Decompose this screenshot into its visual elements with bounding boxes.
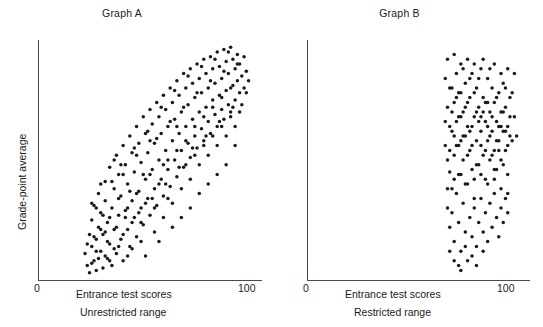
scatter-point (171, 201, 175, 205)
scatter-point (490, 129, 494, 133)
scatter-point (484, 211, 488, 215)
scatter-point (238, 110, 242, 114)
scatter-point (97, 257, 101, 261)
scatter-point (245, 69, 249, 73)
scatter-point (224, 163, 228, 167)
scatter-point (204, 134, 208, 138)
scatter-point (481, 110, 485, 114)
scatter-point (233, 98, 237, 102)
scatter-point (504, 149, 508, 153)
scatter-point (137, 141, 141, 145)
scatter-point (236, 53, 240, 57)
scatter-point (106, 240, 110, 244)
scatter-point (180, 187, 184, 191)
scatter-point (495, 120, 499, 124)
scatter-point (153, 206, 157, 210)
scatter-point (218, 65, 222, 69)
scatter-point (135, 153, 139, 157)
scatter-point (198, 192, 202, 196)
scatter-point (186, 103, 190, 107)
scatter-point (126, 228, 130, 232)
scatter-point (177, 165, 181, 169)
scatter-point (506, 125, 510, 128)
scatter-point (88, 233, 92, 237)
scatter-point (171, 101, 175, 105)
scatter-point (182, 72, 186, 76)
scatter-point (470, 72, 474, 76)
scatter-point (499, 206, 503, 210)
scatter-point (229, 110, 233, 114)
panel-b-x-axis-label: Entrance test scores (345, 288, 441, 300)
scatter-point (175, 149, 179, 153)
scatter-point (470, 144, 474, 148)
scatter-point (473, 177, 477, 181)
scatter-point (231, 57, 235, 61)
scatter-point (224, 89, 228, 93)
scatter-point (106, 221, 110, 225)
scatter-point (153, 141, 157, 145)
scatter-point (184, 125, 188, 128)
scatter-point (202, 144, 206, 148)
scatter-point (211, 105, 215, 109)
scatter-point (157, 158, 161, 162)
scatter-point (189, 156, 193, 160)
scatter-point (497, 91, 501, 95)
panel-b-xtick-0: 0 (303, 282, 309, 294)
scatter-point (481, 230, 485, 234)
scatter-point (240, 103, 244, 107)
scatter-point (121, 233, 125, 237)
scatter-point (233, 144, 237, 148)
scatter-point (222, 48, 226, 52)
scatter-point (466, 57, 470, 61)
scatter-point (99, 249, 103, 253)
scatter-point (133, 146, 137, 150)
scatter-point (499, 158, 503, 162)
scatter-point (150, 197, 154, 201)
scatter-point (455, 72, 459, 76)
scatter-point (130, 151, 134, 155)
scatter-point (119, 163, 123, 167)
scatter-point (108, 259, 112, 263)
scatter-point (450, 86, 454, 90)
scatter-point (490, 86, 494, 90)
scatter-point (150, 122, 154, 126)
scatter-point (452, 153, 456, 157)
scatter-point (245, 91, 249, 95)
scatter-point (501, 221, 505, 225)
scatter-point (227, 50, 231, 54)
scatter-point (202, 115, 206, 119)
scatter-point (94, 206, 98, 210)
scatter-point (126, 182, 130, 186)
scatter-point (166, 197, 170, 201)
scatter-point (186, 74, 190, 78)
scatter-point (117, 213, 121, 217)
scatter-point (493, 101, 497, 105)
scatter-point (497, 149, 501, 153)
scatter-point (479, 197, 483, 201)
scatter-point (488, 158, 492, 162)
scatter-point (108, 165, 112, 169)
scatter-point (110, 264, 114, 268)
scatter-point (229, 115, 233, 119)
scatter-point (195, 91, 199, 95)
scatter-point (497, 235, 501, 239)
scatter-point (486, 139, 490, 143)
scatter-point (112, 187, 116, 191)
scatter-point (475, 163, 479, 167)
scatter-point (510, 91, 514, 95)
scatter-point (198, 110, 202, 114)
scatter-point (117, 173, 121, 177)
scatter-point (466, 125, 470, 128)
figure-two-scatterplots: Graph A Grade-point average 0 100 Entran… (0, 0, 543, 327)
scatter-point (484, 177, 488, 181)
scatter-point (233, 125, 237, 128)
scatter-point (240, 74, 244, 78)
scatter-point (130, 221, 134, 225)
scatter-point (135, 235, 139, 239)
scatter-point (168, 120, 172, 124)
scatter-point (103, 199, 107, 203)
scatter-point (133, 170, 137, 174)
scatter-point (493, 62, 497, 66)
scatter-point (126, 254, 130, 258)
scatter-point (180, 110, 184, 114)
